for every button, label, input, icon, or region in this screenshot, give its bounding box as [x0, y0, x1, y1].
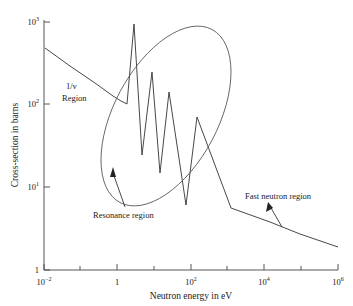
annotation-inverse-v-region: 1/v Region	[62, 81, 87, 103]
x-axis-ticks	[44, 264, 338, 270]
x-tick-label-3: 104	[258, 276, 270, 287]
x-tick-label-4: 106	[332, 276, 344, 287]
x-tick-label-2: 102	[185, 276, 197, 287]
x-tick-labels: 10−2 1 102 104 106	[37, 276, 344, 287]
x-axis-title: Neutron energy in eV	[150, 291, 233, 301]
x-tick-label-0: 10−2	[37, 276, 52, 287]
fast-neutron-region-label: Fast neutron region	[245, 191, 312, 201]
y-tick-label-3: 1	[35, 265, 39, 275]
axes-frame	[44, 20, 338, 270]
resonance-region-arrow-head	[110, 167, 116, 177]
resonance-region-label: Resonance region	[93, 210, 154, 220]
chart-svg: 10−2 1 102 104 106 103 102 101	[0, 0, 353, 306]
y-tick-label-1: 102	[28, 98, 40, 109]
y-axis-ticks	[44, 22, 50, 270]
y-tick-labels: 103 102 101 1	[28, 16, 40, 275]
inverse-v-region-line2: Region	[62, 93, 87, 103]
neutron-cross-section-figure: 10−2 1 102 104 106 103 102 101	[0, 0, 353, 306]
x-tick-label-1: 1	[115, 277, 119, 287]
y-tick-label-2: 101	[28, 181, 40, 192]
series-fast-neutron-line	[231, 208, 338, 247]
y-tick-label-0: 103	[28, 16, 40, 27]
inverse-v-region-line1: 1/v	[66, 81, 78, 91]
series-resonance-curve	[121, 24, 231, 208]
annotation-fast-neutron-region: Fast neutron region	[245, 191, 312, 227]
y-axis-title: Cross-section in barns	[10, 102, 20, 187]
